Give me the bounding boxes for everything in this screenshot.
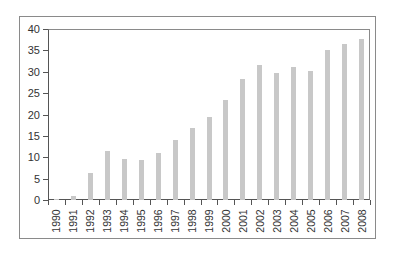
x-tick-label: 2000 bbox=[220, 207, 232, 235]
bar-1999 bbox=[207, 117, 212, 200]
bar-1994 bbox=[122, 159, 127, 200]
x-tick-label: 2003 bbox=[271, 207, 283, 235]
bar-1992 bbox=[88, 173, 93, 200]
x-tick bbox=[99, 200, 100, 205]
x-tick-label: 2007 bbox=[339, 207, 351, 235]
x-tick-label: 1995 bbox=[135, 207, 147, 235]
bar-2002 bbox=[257, 65, 262, 200]
x-tick-label-text: 2005 bbox=[305, 209, 317, 232]
x-tick-label: 1994 bbox=[118, 207, 130, 235]
bar-2000 bbox=[223, 100, 228, 200]
bar-1993 bbox=[105, 151, 110, 200]
x-tick-label-text: 1996 bbox=[152, 209, 164, 232]
y-tick-label: 30 bbox=[14, 66, 40, 78]
x-tick-label-text: 1998 bbox=[186, 209, 198, 232]
bar-1998 bbox=[190, 128, 195, 200]
x-tick bbox=[184, 200, 185, 205]
x-tick-label: 1990 bbox=[50, 207, 62, 235]
x-tick-label: 2008 bbox=[356, 207, 368, 235]
x-tick bbox=[370, 200, 371, 205]
x-tick-label: 2002 bbox=[254, 207, 266, 235]
y-tick bbox=[43, 72, 48, 73]
x-tick bbox=[285, 200, 286, 205]
y-tick bbox=[43, 115, 48, 116]
x-tick bbox=[319, 200, 320, 205]
x-tick-label: 1997 bbox=[169, 207, 181, 235]
y-tick-label: 5 bbox=[14, 173, 40, 185]
x-tick bbox=[82, 200, 83, 205]
x-tick-label: 2005 bbox=[305, 207, 317, 235]
y-tick bbox=[43, 179, 48, 180]
y-tick-label: 15 bbox=[14, 130, 40, 142]
x-tick-label-text: 2002 bbox=[254, 209, 266, 232]
x-tick-label-text: 2006 bbox=[322, 209, 334, 232]
y-tick-label: 35 bbox=[14, 44, 40, 56]
x-tick bbox=[234, 200, 235, 205]
bar-2001 bbox=[240, 79, 245, 200]
x-tick-label: 2001 bbox=[237, 207, 249, 235]
bar-1996 bbox=[156, 153, 161, 200]
x-tick-label-text: 1997 bbox=[169, 209, 181, 232]
y-tick bbox=[43, 93, 48, 94]
bar-1991 bbox=[71, 196, 76, 200]
y-tick-label: 20 bbox=[14, 109, 40, 121]
x-tick-label-text: 1991 bbox=[67, 209, 79, 232]
x-tick-label-text: 2000 bbox=[220, 209, 232, 232]
y-tick bbox=[43, 29, 48, 30]
bar-2005 bbox=[308, 71, 313, 200]
bar-1997 bbox=[173, 140, 178, 200]
y-tick bbox=[43, 50, 48, 51]
x-tick bbox=[133, 200, 134, 205]
x-tick-label-text: 2001 bbox=[237, 209, 249, 232]
x-tick-label: 1998 bbox=[186, 207, 198, 235]
x-tick bbox=[302, 200, 303, 205]
x-tick-label: 1999 bbox=[203, 207, 215, 235]
x-tick-label: 2006 bbox=[322, 207, 334, 235]
x-tick bbox=[336, 200, 337, 205]
x-tick-label-text: 1999 bbox=[203, 209, 215, 232]
x-tick bbox=[353, 200, 354, 205]
bar-2003 bbox=[274, 73, 279, 200]
bar-2007 bbox=[342, 44, 347, 200]
y-tick-label: 40 bbox=[14, 23, 40, 35]
x-tick-label-text: 2007 bbox=[339, 209, 351, 232]
x-tick-label: 1993 bbox=[101, 207, 113, 235]
bar-1990 bbox=[54, 199, 59, 200]
x-tick bbox=[48, 200, 49, 205]
y-tick-label: 10 bbox=[14, 151, 40, 163]
x-tick-label: 1996 bbox=[152, 207, 164, 235]
x-tick bbox=[201, 200, 202, 205]
x-tick-label-text: 1990 bbox=[50, 209, 62, 232]
x-tick-label-text: 1993 bbox=[101, 209, 113, 232]
y-tick bbox=[43, 136, 48, 137]
x-tick-label-text: 2003 bbox=[271, 209, 283, 232]
x-tick bbox=[116, 200, 117, 205]
x-tick-label-text: 2008 bbox=[356, 209, 368, 232]
bar-2004 bbox=[291, 67, 296, 200]
x-tick-label: 1992 bbox=[84, 207, 96, 235]
x-tick bbox=[65, 200, 66, 205]
bar-2008 bbox=[359, 39, 364, 200]
x-tick-label-text: 1992 bbox=[84, 209, 96, 232]
x-tick-label-text: 1995 bbox=[135, 209, 147, 232]
bar-2006 bbox=[325, 50, 330, 200]
y-tick-label: 0 bbox=[14, 194, 40, 206]
y-tick bbox=[43, 157, 48, 158]
x-tick bbox=[217, 200, 218, 205]
x-tick-label-text: 1994 bbox=[118, 209, 130, 232]
x-tick-label: 2004 bbox=[288, 207, 300, 235]
x-tick bbox=[268, 200, 269, 205]
x-tick-label-text: 2004 bbox=[288, 209, 300, 232]
bar-1995 bbox=[139, 160, 144, 200]
x-tick bbox=[150, 200, 151, 205]
x-tick bbox=[251, 200, 252, 205]
x-tick bbox=[167, 200, 168, 205]
y-tick-label: 25 bbox=[14, 87, 40, 99]
x-tick-label: 1991 bbox=[67, 207, 79, 235]
